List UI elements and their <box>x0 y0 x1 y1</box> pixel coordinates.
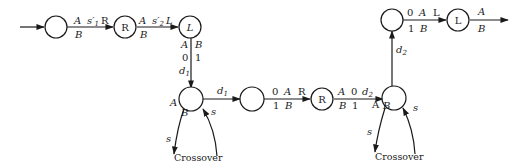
svg-text:A: A <box>169 97 177 108</box>
svg-text:R: R <box>318 94 326 105</box>
svg-text:0: 0 <box>351 86 357 97</box>
node-n6: R <box>311 88 333 110</box>
state-diagram: R L R L A s′1 R B A s′2 L B <box>0 0 524 166</box>
crossover-in-n7 <box>403 108 415 154</box>
svg-text:0: 0 <box>182 52 188 63</box>
svg-text:L: L <box>186 22 194 33</box>
svg-text:A: A <box>371 99 380 110</box>
svg-text:A: A <box>477 6 485 17</box>
svg-text:B: B <box>477 23 485 34</box>
svg-text:R: R <box>298 86 306 97</box>
svg-text:d1: d1 <box>179 65 190 78</box>
node-n3: L <box>179 16 201 38</box>
svg-text:R: R <box>101 15 109 26</box>
svg-text:B: B <box>194 39 202 50</box>
svg-text:L: L <box>433 7 440 18</box>
svg-text:A: A <box>138 15 146 26</box>
svg-text:1: 1 <box>195 52 201 63</box>
svg-text:B: B <box>338 100 346 111</box>
svg-text:B: B <box>419 23 427 34</box>
svg-text:d2: d2 <box>362 86 373 99</box>
svg-text:B: B <box>180 107 188 118</box>
node-n1 <box>45 16 67 38</box>
svg-text:A: A <box>418 7 426 18</box>
svg-text:s: s <box>367 126 372 137</box>
svg-text:1: 1 <box>352 100 358 111</box>
svg-text:s: s <box>413 102 418 113</box>
label-e78: d2 <box>396 44 407 57</box>
svg-text:A: A <box>283 86 291 97</box>
svg-text:B: B <box>74 29 82 40</box>
svg-text:A: A <box>337 86 345 97</box>
svg-text:s: s <box>166 133 171 144</box>
svg-text:L: L <box>455 15 462 26</box>
label-e45: d1 <box>217 85 228 98</box>
svg-text:A: A <box>180 39 188 50</box>
svg-text:B: B <box>382 100 390 111</box>
svg-text:0: 0 <box>272 86 278 97</box>
svg-text:Crossover: Crossover <box>375 151 424 162</box>
node-n5 <box>240 87 264 111</box>
node-n8 <box>381 9 403 31</box>
svg-text:B: B <box>284 100 292 111</box>
svg-text:1: 1 <box>273 100 279 111</box>
node-n2: R <box>114 16 136 38</box>
node-n9: L <box>447 9 469 31</box>
crossover-out-n7 <box>375 108 385 152</box>
svg-text:L: L <box>165 15 173 26</box>
svg-text:s: s <box>211 106 216 117</box>
svg-text:s′2: s′2 <box>152 15 164 28</box>
svg-text:0: 0 <box>407 7 413 18</box>
svg-text:1: 1 <box>408 23 414 34</box>
svg-text:B: B <box>139 29 147 40</box>
svg-text:R: R <box>121 22 129 33</box>
svg-text:A: A <box>73 15 81 26</box>
svg-text:s′1: s′1 <box>87 15 99 28</box>
svg-text:Crossover: Crossover <box>174 152 223 163</box>
